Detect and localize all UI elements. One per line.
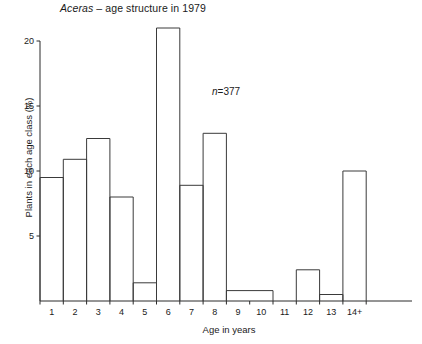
x-tick-label: 3	[96, 307, 101, 317]
x-tick-label: 8	[212, 307, 217, 317]
bar	[203, 133, 226, 301]
bar	[40, 178, 63, 302]
x-axis-label-text: Age in years	[167, 324, 256, 335]
chart-title-rest: – age structure in 1979	[93, 2, 206, 14]
x-axis-label: Age in years	[0, 324, 422, 335]
y-tick-label: 20	[24, 36, 34, 46]
x-tick-label: 5	[142, 307, 147, 317]
x-tick-label: 10	[256, 307, 266, 317]
chart-title-species: Aceras	[60, 2, 93, 14]
bar	[110, 197, 133, 301]
x-tick-label: 6	[166, 307, 171, 317]
bar	[87, 139, 110, 302]
bar	[133, 283, 156, 301]
bar	[63, 159, 86, 301]
chart-plot-area: 51015201234567891011121314+	[0, 0, 422, 344]
bar	[226, 291, 273, 301]
x-tick-label: 13	[326, 307, 336, 317]
bar	[180, 185, 203, 301]
bar	[296, 270, 319, 301]
bar	[343, 171, 366, 301]
y-axis-label: Plants in each age class (%)	[23, 58, 34, 258]
x-tick-label: 2	[72, 307, 77, 317]
sample-size-value: =377	[218, 86, 241, 97]
x-tick-label: 12	[303, 307, 313, 317]
x-tick-label: 1	[49, 307, 54, 317]
bar	[157, 28, 180, 301]
bar	[320, 295, 343, 302]
sample-size-annotation: n=377	[212, 86, 240, 97]
chart-figure: Aceras – age structure in 1979 n=377 Pla…	[0, 0, 422, 344]
x-tick-label: 9	[236, 307, 241, 317]
chart-title: Aceras – age structure in 1979	[60, 2, 206, 14]
x-tick-label: 4	[119, 307, 124, 317]
x-tick-label: 14+	[347, 307, 362, 317]
x-tick-label: 11	[280, 307, 289, 317]
x-tick-label: 7	[189, 307, 194, 317]
